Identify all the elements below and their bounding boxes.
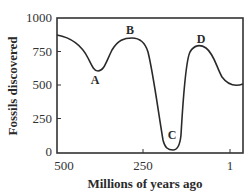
y-tick-250: 250 <box>33 111 53 126</box>
y-tick-750: 750 <box>33 44 53 59</box>
point-label-d: D <box>197 32 206 46</box>
point-label-c: C <box>168 128 177 142</box>
x-tick-250: 250 <box>133 158 153 173</box>
fossil-curve <box>57 35 243 150</box>
point-label-a: A <box>91 73 100 87</box>
plot-frame <box>57 18 243 153</box>
x-tick-1: 1 <box>227 158 234 173</box>
y-tick-0: 0 <box>46 144 53 159</box>
x-axis-title: Millions of years ago <box>87 176 202 191</box>
y-axis-title: Fossils discovered <box>5 36 20 136</box>
y-tick-500: 500 <box>33 77 53 92</box>
fossil-chart: 1000 750 500 250 0 500 250 1 Millions of… <box>0 0 249 193</box>
point-label-b: B <box>126 23 134 37</box>
y-axis: 1000 750 500 250 0 <box>26 10 61 159</box>
x-tick-500: 500 <box>54 158 74 173</box>
y-tick-1000: 1000 <box>26 10 52 25</box>
